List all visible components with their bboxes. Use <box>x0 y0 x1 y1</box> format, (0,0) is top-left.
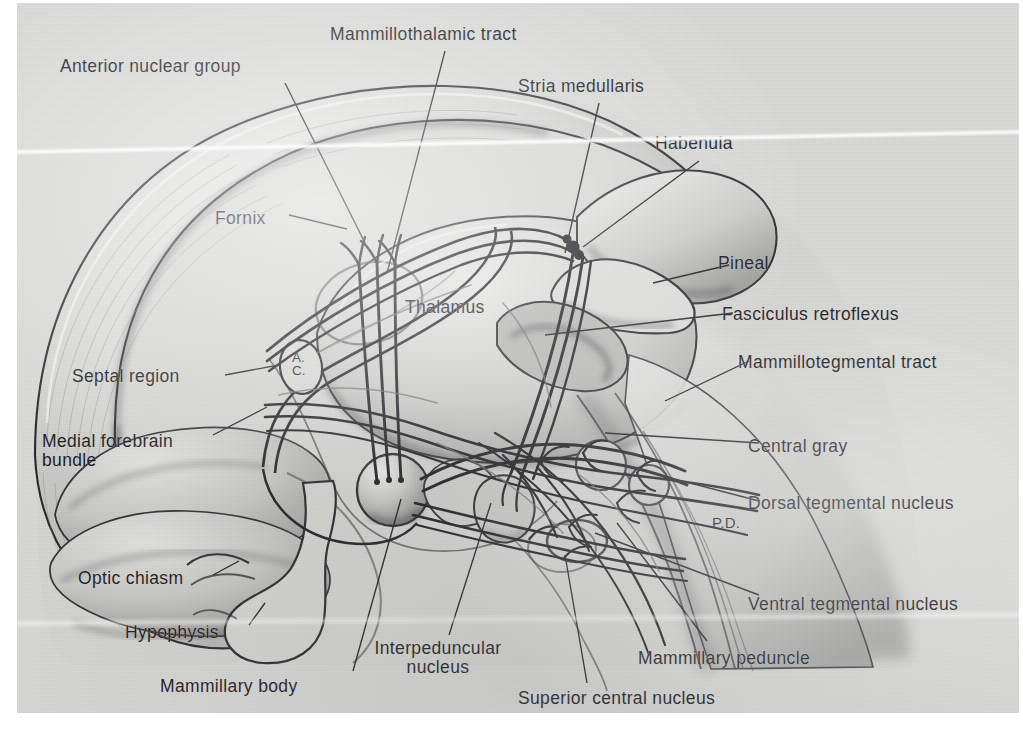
label-interpeduncular-nucleus: Interpeduncular nucleus <box>363 639 513 677</box>
label-medial-forebrain-bundle: Medial forebrain bundle <box>42 432 173 470</box>
label-mammillary-peduncle: Mammillary peduncle <box>638 649 810 668</box>
scanned-plate: Mammillothalamic tract Anterior nuclear … <box>17 3 1019 713</box>
label-ventral-tegmental-nucleus: Ventral tegmental nucleus <box>748 595 958 614</box>
label-layer: Mammillothalamic tract Anterior nuclear … <box>17 3 1019 713</box>
annotation-pd-marker: P.D. <box>712 514 740 531</box>
label-habenula: Habenula <box>655 134 733 153</box>
label-septal-region: Septal region <box>72 367 180 386</box>
label-fasciculus-retroflexus: Fasciculus retroflexus <box>722 305 899 324</box>
annotation-anterior-commissure: A. C. <box>292 351 306 377</box>
label-thalamus: Thalamus <box>405 298 485 317</box>
label-stria-medullaris: Stria medullaris <box>518 77 644 96</box>
label-superior-central-nucleus: Superior central nucleus <box>518 689 715 708</box>
label-mammillotegmental-tract: Mammillotegmental tract <box>738 353 937 372</box>
label-optic-chiasm: Optic chiasm <box>78 569 183 588</box>
label-fornix: Fornix <box>215 209 266 228</box>
label-mammillary-body: Mammillary body <box>160 677 298 696</box>
figure-page: Mammillothalamic tract Anterior nuclear … <box>0 0 1023 731</box>
label-anterior-nuclear-group: Anterior nuclear group <box>60 57 241 76</box>
label-pineal: Pineal <box>718 254 769 273</box>
label-dorsal-tegmental-nucleus: Dorsal tegmental nucleus <box>748 494 954 513</box>
label-hypophysis: Hypophysis <box>125 623 219 642</box>
label-central-gray: Central gray <box>748 437 848 456</box>
label-mammillothalamic-tract: Mammillothalamic tract <box>330 25 517 44</box>
